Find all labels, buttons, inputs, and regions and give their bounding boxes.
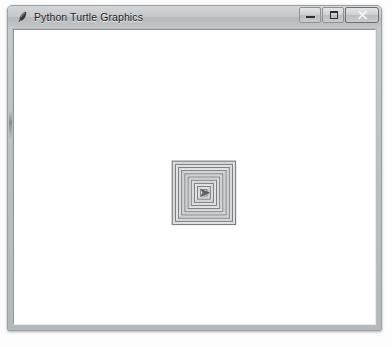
window-titlebar[interactable]: Python Turtle Graphics bbox=[8, 6, 381, 27]
turtle-drawing bbox=[14, 30, 375, 324]
canvas-bevel bbox=[13, 29, 376, 325]
minimize-icon bbox=[306, 16, 315, 18]
minimize-button[interactable] bbox=[299, 7, 321, 23]
window-client-area bbox=[12, 28, 377, 326]
window-title: Python Turtle Graphics bbox=[34, 11, 143, 23]
maximize-button[interactable] bbox=[322, 7, 344, 23]
desktop-background: Python Turtle Graphics bbox=[0, 0, 392, 347]
window-controls bbox=[298, 7, 379, 23]
turtle-feather-icon bbox=[16, 10, 29, 23]
turtle-graphics-window: Python Turtle Graphics bbox=[7, 5, 382, 331]
close-button[interactable] bbox=[345, 7, 379, 23]
maximize-icon bbox=[330, 11, 338, 19]
turtle-drawing-canvas[interactable] bbox=[14, 30, 375, 324]
